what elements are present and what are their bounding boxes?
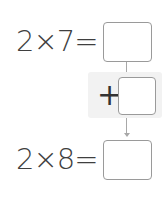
connector-line-bottom bbox=[126, 118, 127, 134]
multiply-sign: × bbox=[33, 24, 56, 58]
equation-left-operand: 2 bbox=[16, 24, 33, 58]
increment-answer-box[interactable] bbox=[118, 77, 156, 115]
multiply-sign: × bbox=[33, 142, 56, 176]
equation-2x7: 2×7= bbox=[16, 25, 98, 57]
arrow-down-icon bbox=[124, 133, 130, 137]
equals-sign: = bbox=[74, 142, 97, 176]
equation-right-operand: 7 bbox=[57, 24, 74, 58]
equation-2x8: 2×8= bbox=[16, 143, 98, 175]
equation-left-operand: 2 bbox=[16, 142, 33, 176]
equals-sign: = bbox=[74, 24, 97, 58]
answer-box-2x8[interactable] bbox=[103, 140, 152, 180]
answer-box-2x7[interactable] bbox=[103, 22, 152, 62]
equation-right-operand: 8 bbox=[57, 142, 74, 176]
